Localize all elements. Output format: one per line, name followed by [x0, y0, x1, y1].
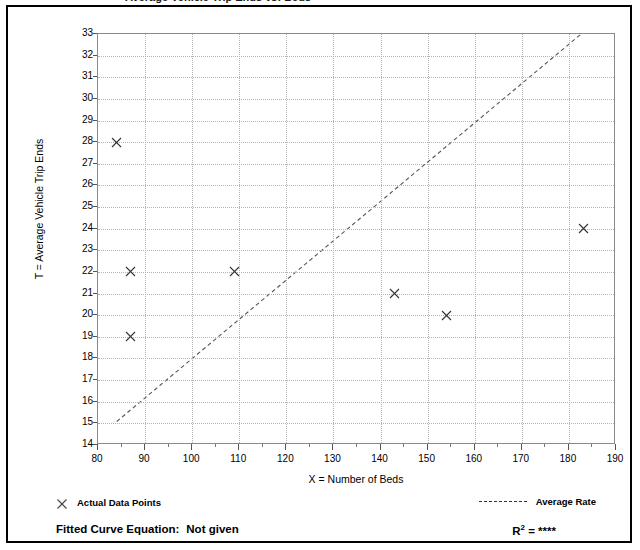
x-tick-mark-major — [474, 444, 475, 450]
average-rate-trendline — [98, 34, 614, 443]
y-axis-ticks: 1415161718192021222324252627282930313233 — [60, 33, 93, 444]
data-point-marker — [389, 288, 400, 299]
x-tick-mark-major — [615, 444, 616, 450]
y-tick-label: 27 — [63, 158, 93, 168]
x-tick-mark-minor — [356, 444, 357, 447]
r-squared-label: R — [512, 525, 520, 537]
chart-footer: Fitted Curve Equation:Not given R2 = ***… — [8, 523, 634, 545]
fitted-curve-equation: Fitted Curve Equation:Not given — [56, 523, 239, 535]
y-tick-label: 26 — [63, 179, 93, 189]
r-squared-exponent: 2 — [521, 523, 525, 532]
x-tick-label: 90 — [124, 453, 164, 464]
r-squared-annotation: R2 = **** — [512, 523, 556, 537]
dashed-line-icon — [479, 501, 527, 502]
y-tick-label: 15 — [63, 417, 93, 427]
x-marker-icon — [56, 496, 68, 508]
trendline-segment — [117, 34, 581, 421]
x-tick-mark-major — [521, 444, 522, 450]
y-tick-label: 16 — [63, 396, 93, 406]
clipped-title-bar: Average Vehicle Trip Ends vs: Beds — [5, 0, 635, 4]
x-tick-mark-minor — [262, 444, 263, 447]
legend-item-average-rate: Average Rate — [479, 496, 596, 507]
fitted-curve-value: Not given — [186, 523, 238, 535]
x-tick-label: 140 — [360, 453, 400, 464]
data-point-marker — [111, 137, 122, 148]
y-tick-label: 28 — [63, 136, 93, 146]
y-axis-title: T = Average Vehicle Trip Ends — [33, 99, 45, 319]
x-tick-mark-minor — [168, 444, 169, 447]
y-tick-label: 20 — [63, 309, 93, 319]
x-tick-mark-major — [238, 444, 239, 450]
figure-frame: T = Average Vehicle Trip Ends 1415161718… — [6, 5, 632, 543]
y-tick-label: 32 — [63, 50, 93, 60]
x-tick-mark-major — [285, 444, 286, 450]
y-tick-label: 19 — [63, 331, 93, 341]
x-tick-label: 80 — [77, 453, 117, 464]
y-tick-label: 22 — [63, 266, 93, 276]
x-tick-mark-minor — [215, 444, 216, 447]
y-tick-label: 33 — [63, 28, 93, 38]
data-point-marker — [229, 266, 240, 277]
x-tick-mark-major — [568, 444, 569, 450]
data-point-marker — [125, 266, 136, 277]
x-tick-label: 180 — [548, 453, 588, 464]
y-tick-label: 14 — [63, 439, 93, 449]
x-tick-mark-major — [144, 444, 145, 450]
figure-title: Average Vehicle Trip Ends vs: Beds — [125, 0, 311, 3]
legend-label-average-rate: Average Rate — [536, 496, 596, 507]
x-tick-mark-major — [191, 444, 192, 450]
data-point-marker — [441, 310, 452, 321]
x-tick-label: 100 — [171, 453, 211, 464]
y-tick-label: 24 — [63, 223, 93, 233]
x-tick-mark-minor — [450, 444, 451, 447]
x-tick-label: 110 — [218, 453, 258, 464]
y-tick-label: 21 — [63, 288, 93, 298]
chart-page: Average Vehicle Trip Ends vs: Beds T = A… — [0, 0, 640, 550]
x-tick-mark-minor — [591, 444, 592, 447]
y-tick-label: 17 — [63, 374, 93, 384]
x-axis-title: X = Number of Beds — [97, 473, 615, 485]
x-tick-mark-major — [427, 444, 428, 450]
x-tick-mark-minor — [309, 444, 310, 447]
x-tick-mark-minor — [497, 444, 498, 447]
x-tick-mark-minor — [403, 444, 404, 447]
legend-item-actual-data-points: Actual Data Points — [56, 496, 161, 508]
x-tick-mark-major — [380, 444, 381, 450]
r-squared-value: **** — [538, 525, 556, 537]
y-tick-label: 23 — [63, 244, 93, 254]
plot-area — [97, 33, 615, 444]
chart-legend: Actual Data Points Average Rate — [8, 496, 634, 516]
y-tick-label: 31 — [63, 71, 93, 81]
data-point-marker — [578, 223, 589, 234]
x-tick-mark-major — [332, 444, 333, 450]
x-tick-label: 130 — [312, 453, 352, 464]
x-tick-label: 120 — [265, 453, 305, 464]
x-tick-label: 190 — [595, 453, 635, 464]
x-tick-mark-major — [97, 444, 98, 450]
x-tick-mark-minor — [121, 444, 122, 447]
x-tick-label: 160 — [454, 453, 494, 464]
data-point-marker — [125, 331, 136, 342]
r-squared-equals: = — [528, 525, 535, 537]
legend-label-actual-data-points: Actual Data Points — [77, 497, 161, 508]
y-tick-label: 25 — [63, 201, 93, 211]
y-tick-label: 29 — [63, 115, 93, 125]
y-tick-label: 18 — [63, 352, 93, 362]
fitted-curve-label: Fitted Curve Equation: — [56, 523, 179, 535]
y-tick-label: 30 — [63, 93, 93, 103]
x-tick-label: 170 — [501, 453, 541, 464]
x-tick-mark-minor — [544, 444, 545, 447]
x-tick-label: 150 — [407, 453, 447, 464]
x-axis-ticks: 8090100110120130140150160170180190 — [97, 444, 615, 474]
